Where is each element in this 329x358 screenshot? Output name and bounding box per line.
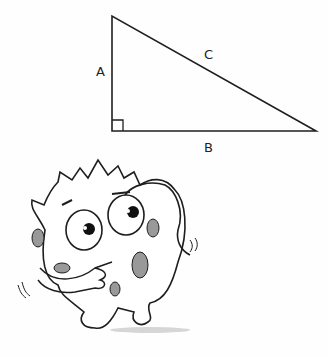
right-eye xyxy=(108,195,144,235)
spot-left xyxy=(32,229,44,247)
motion-lines-left xyxy=(18,282,30,298)
left-eye-highlight xyxy=(83,226,87,230)
monster-body xyxy=(32,160,185,328)
spot-belly xyxy=(132,252,148,278)
motion-lines-right xyxy=(190,238,197,252)
spot-lower xyxy=(110,282,120,296)
monster-illustration xyxy=(0,0,329,358)
right-eye-highlight xyxy=(126,209,130,213)
spot-cheek xyxy=(54,263,70,273)
spot-right xyxy=(147,219,159,237)
ground-shadow xyxy=(110,327,190,333)
illustration-canvas: A C B xyxy=(0,0,329,358)
